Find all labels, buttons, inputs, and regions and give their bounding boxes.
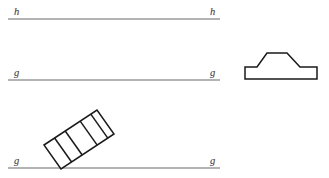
line-h-label-left: h xyxy=(14,6,19,17)
line-g-middle-label-left: g xyxy=(14,67,19,78)
inclined-bar-outline xyxy=(44,110,114,169)
stepped-block-shape xyxy=(245,53,317,79)
line-g-middle-label-right: g xyxy=(210,67,215,78)
geometry-figure: h h g g g g xyxy=(0,0,329,178)
line-h-label-right: h xyxy=(210,6,215,17)
line-g-bottom-label-left: g xyxy=(14,155,19,166)
line-g-bottom-label-right: g xyxy=(210,155,215,166)
figure-canvas: h h g g g g xyxy=(0,0,329,178)
